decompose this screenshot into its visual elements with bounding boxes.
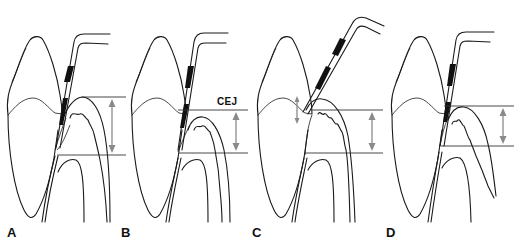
panel-label-b: B [121,225,130,240]
periodontal-probing-figure: A B C D CEJ [0,0,514,246]
panel-label-a: A [7,225,16,240]
panel-d-drawing [391,32,514,222]
panel-c-drawing [257,17,384,222]
panel-a-drawing [7,34,126,222]
panel-b-drawing [131,33,248,222]
cej-annotation: CEJ [217,96,237,107]
panel-label-d: D [386,225,395,240]
panel-label-c: C [252,225,261,240]
